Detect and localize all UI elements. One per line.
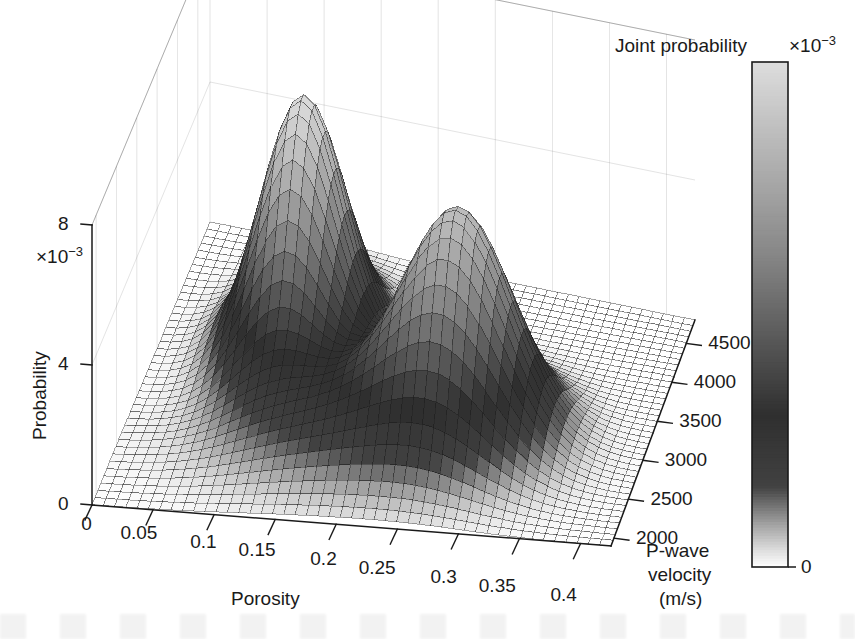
colorbar-exponent: ×10−3: [789, 34, 836, 55]
joint-probability-surface-figure: [0, 0, 855, 639]
x-tick-0.35: 0.35: [479, 576, 516, 595]
colorbar: [752, 0, 796, 568]
x-tick-0.05: 0.05: [120, 523, 157, 542]
y-axis-label-line-3: (m/s): [659, 589, 702, 608]
x-tick-0.15: 0.15: [239, 540, 276, 559]
x-tick-0.3: 0.3: [430, 567, 456, 586]
y-tick-2500: 2500: [650, 489, 692, 508]
z-axis-exponent: ×10−3: [36, 245, 83, 266]
y-tick-3500: 3500: [679, 411, 721, 430]
z-tick-4: 4: [58, 354, 69, 373]
x-tick-0.1: 0.1: [190, 532, 216, 551]
z-axis-exponent-power: −3: [68, 244, 83, 259]
colorbar-exponent-mantissa: ×10: [789, 35, 821, 56]
probability-surface-mesh: [92, 95, 695, 546]
y-axis-label-line-2: velocity: [648, 565, 711, 584]
colorbar-tick-0: 0: [801, 557, 812, 576]
x-tick-0.4: 0.4: [551, 585, 577, 604]
y-tick-3000: 3000: [665, 450, 707, 469]
z-tick-8: 8: [58, 214, 69, 233]
z-axis-exponent-mantissa: ×10: [36, 246, 68, 267]
x-tick-0.25: 0.25: [359, 558, 396, 577]
y-tick-4500: 4500: [708, 333, 750, 352]
colorbar-exponent-power: −3: [821, 33, 836, 48]
scan-page-bleed: [0, 614, 855, 639]
z-axis-label: Probability: [30, 351, 49, 440]
z-tick-0: 0: [58, 494, 69, 513]
x-tick-0.2: 0.2: [310, 549, 336, 568]
y-tick-4000: 4000: [694, 372, 736, 391]
y-axis-label-line-1: P-wave: [646, 541, 709, 560]
x-tick-0: 0: [81, 514, 92, 533]
colorbar-title: Joint probability: [615, 36, 747, 55]
x-axis-label: Porosity: [231, 589, 300, 608]
